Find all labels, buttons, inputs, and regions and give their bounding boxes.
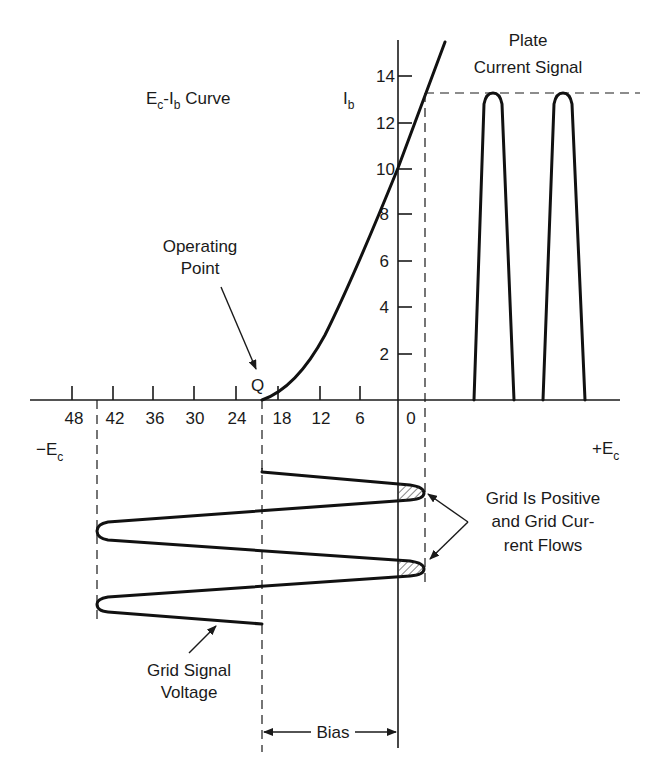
svg-text:18: 18 — [273, 409, 292, 428]
grid-positive-arrow-1 — [428, 494, 468, 522]
y-axis-label: Ib — [343, 89, 355, 112]
y-axis-ticks: 14 12 10 8 6 4 2 — [376, 67, 412, 364]
plate-current-pulse-1 — [474, 93, 514, 400]
operating-point-arrow — [221, 287, 256, 369]
bias-label: Bias — [316, 723, 349, 742]
ec-ib-diagram: Ec-Ib Curve Ib 14 12 10 8 6 4 2 48 42 36… — [0, 0, 651, 776]
plate-current-pulse-2 — [543, 93, 585, 400]
pos-ec-label: +Ec — [592, 439, 619, 463]
svg-text:48: 48 — [65, 409, 84, 428]
grid-signal-waveform — [97, 472, 424, 624]
ec-ib-curve — [262, 42, 445, 400]
svg-text:14: 14 — [376, 67, 395, 86]
plate-current-label-1: Plate — [509, 31, 548, 50]
svg-text:24: 24 — [228, 409, 247, 428]
svg-text:36: 36 — [146, 409, 165, 428]
svg-text:42: 42 — [106, 409, 125, 428]
curve-title: Ec-Ib Curve — [146, 89, 231, 112]
operating-point-label-2: Point — [181, 259, 220, 278]
svg-text:2: 2 — [380, 345, 389, 364]
q-label: Q — [251, 376, 264, 395]
grid-positive-label-3: rent Flows — [504, 536, 582, 555]
grid-signal-label-2: Voltage — [161, 683, 218, 702]
plate-current-label-2: Current Signal — [474, 58, 583, 77]
grid-signal-arrow — [189, 626, 216, 653]
svg-text:12: 12 — [312, 409, 331, 428]
svg-text:30: 30 — [186, 409, 205, 428]
operating-point-label-1: Operating — [163, 237, 238, 256]
grid-signal-label-1: Grid Signal — [147, 661, 231, 680]
svg-text:6: 6 — [355, 409, 364, 428]
svg-text:4: 4 — [380, 298, 389, 317]
svg-text:6: 6 — [380, 252, 389, 271]
svg-text:10: 10 — [376, 160, 395, 179]
neg-ec-label: −Ec — [36, 440, 63, 464]
svg-text:12: 12 — [376, 114, 395, 133]
x-axis-ticks: 48 42 36 30 24 18 12 6 0 — [65, 386, 416, 428]
svg-text:0: 0 — [406, 409, 415, 428]
grid-positive-label-2: and Grid Cur- — [492, 512, 595, 531]
grid-positive-arrow-2 — [430, 522, 468, 559]
grid-positive-label-1: Grid Is Positive — [486, 489, 600, 508]
